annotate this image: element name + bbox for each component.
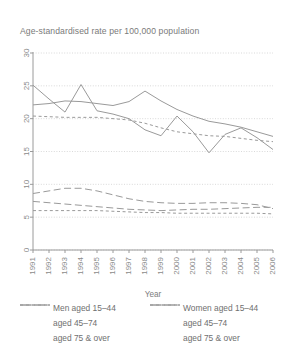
y-tick-label: 20 [22,114,31,123]
legend-label: Women aged 15–44 [183,303,258,313]
x-tick-label: 1998 [140,256,149,274]
x-tick-label: 1995 [92,256,101,274]
x-tick-label: 1997 [124,256,133,274]
legend-label: Men aged 15–44 [53,303,116,313]
legend-swatch-solid-icon [150,333,180,343]
x-tick-label: 2003 [220,256,229,274]
x-tick-label: 2002 [204,256,213,274]
legend-label: aged 45–74 [183,318,227,328]
legend-swatch-solid-icon [20,333,50,343]
legend-item[interactable]: aged 75 & over [150,330,258,345]
chart-container: Age-standardised rate per 100,000 popula… [0,0,288,354]
y-tick-label: 10 [22,179,31,188]
chart-legend: Men aged 15–44aged 45–74aged 75 & over W… [0,300,288,354]
legend-item[interactable]: aged 45–74 [150,315,258,330]
series-line [33,188,273,208]
legend-item[interactable]: aged 75 & over [20,330,116,345]
y-tick-label: 5 [22,214,31,219]
series-line [33,116,273,142]
legend-column-women: Women aged 15–44aged 45–74aged 75 & over [150,300,258,345]
legend-item[interactable]: aged 45–74 [20,315,116,330]
x-tick-label: 2004 [236,256,245,274]
x-tick-label: 1993 [60,256,69,274]
x-tick-label: 1996 [108,256,117,274]
legend-label: aged 75 & over [53,333,110,343]
x-tick-label: 2005 [252,256,261,274]
y-tick-label: 15 [22,147,31,156]
legend-swatch-dashed-icon [20,318,50,328]
x-tick-label: 1992 [44,256,53,274]
legend-label: aged 45–74 [53,318,97,328]
y-tick-label: 25 [22,81,31,90]
legend-swatch-dashed-icon [150,318,180,328]
chart-plot: 0510152025301991199219931994199519961997… [0,0,288,300]
x-tick-label: 2001 [188,256,197,274]
x-tick-label: 1991 [28,256,37,274]
series-line [33,211,273,214]
y-tick-label: 30 [22,48,31,57]
y-tick-label: 0 [22,247,31,252]
x-tick-label: 1994 [76,256,85,274]
x-tick-label: 2006 [268,256,277,274]
x-tick-label: 2000 [172,256,181,274]
x-axis-label: Year [145,290,162,299]
x-tick-label: 1999 [156,256,165,274]
legend-label: aged 75 & over [183,333,240,343]
legend-column-men: Men aged 15–44aged 45–74aged 75 & over [20,300,116,345]
